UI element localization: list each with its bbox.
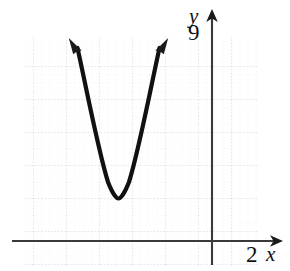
parabola-graph-svg	[0, 0, 290, 271]
grid-background	[25, 36, 259, 266]
x-axis-label: x	[266, 244, 275, 265]
graph-figure	[0, 0, 290, 271]
y-axis-tick-label-9: 9	[188, 21, 200, 44]
x-axis-tick-label-2: 2	[246, 243, 258, 266]
